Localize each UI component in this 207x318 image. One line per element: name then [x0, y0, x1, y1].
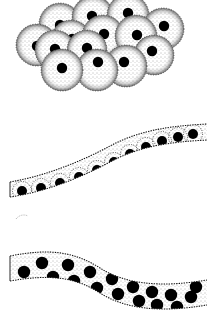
- nucleus: [93, 57, 103, 67]
- nucleus: [84, 266, 96, 278]
- nucleus: [132, 30, 142, 40]
- cell: [41, 49, 83, 91]
- nucleus: [159, 21, 169, 31]
- nucleus: [18, 266, 30, 278]
- nucleus: [112, 288, 124, 300]
- nucleus: [147, 46, 157, 56]
- nucleus: [173, 132, 183, 142]
- nucleus: [133, 295, 145, 307]
- nucleus: [127, 281, 139, 293]
- nucleus: [119, 57, 129, 67]
- nucleus: [165, 289, 177, 301]
- figure-canvas: [0, 0, 207, 318]
- nucleus: [188, 129, 198, 139]
- nucleus: [36, 257, 48, 269]
- nucleus: [62, 259, 74, 271]
- nucleus: [57, 63, 67, 73]
- nucleus: [146, 286, 158, 298]
- histology-figure: Cluster of rounded stippled cells, each …: [0, 0, 207, 318]
